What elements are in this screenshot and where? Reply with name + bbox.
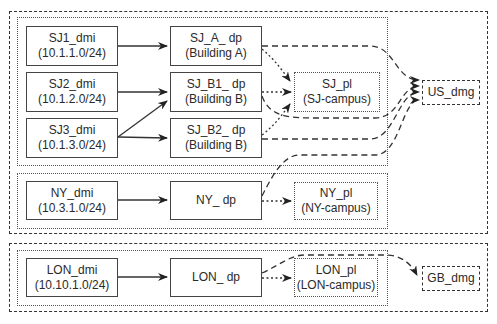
node-ny-dp: NY_ dp	[170, 181, 262, 220]
node-lon-dmi: LON_dmi (10.10.1.0/24)	[26, 258, 118, 297]
node-ny-pl: NY_pl (NY-campus)	[294, 182, 378, 220]
node-sub: (Building A)	[185, 46, 246, 61]
node-label: US_dmg	[428, 85, 475, 100]
node-subnet: (10.1.2.0/24)	[38, 92, 106, 107]
node-label: SJ_pl	[322, 77, 352, 92]
node-label: NY_ dp	[196, 193, 236, 208]
node-sj3-dmi: SJ3_dmi (10.1.3.0/24)	[26, 118, 118, 158]
node-sj2-dmi: SJ2_dmi (10.1.2.0/24)	[26, 72, 118, 112]
node-label: LON_dmi	[47, 263, 98, 278]
node-ny-dmi: NY_dmi (10.3.1.0/24)	[26, 181, 118, 220]
node-label: SJ_B1_ dp	[187, 77, 246, 92]
node-sj1-dmi: SJ1_dmi (10.1.1.0/24)	[26, 26, 118, 66]
node-label: SJ_B2_ dp	[187, 123, 246, 138]
node-lon-dp: LON_ dp	[170, 258, 262, 297]
node-label: NY_pl	[320, 186, 353, 201]
node-sj-b2-dp: SJ_B2_ dp (Building B)	[170, 118, 262, 158]
node-sj-pl: SJ_pl (SJ-campus)	[294, 72, 380, 112]
node-label: SJ1_dmi	[49, 31, 96, 46]
node-sj-a-dp: SJ_A_ dp (Building A)	[170, 26, 262, 66]
node-sub: (Building B)	[185, 92, 247, 107]
node-sub: (Building B)	[185, 138, 247, 153]
node-gb-dmg: GB_dmg	[422, 266, 480, 291]
node-label: SJ3_dmi	[49, 123, 96, 138]
node-subnet: (10.3.1.0/24)	[38, 201, 106, 216]
node-lon-pl: LON_pl (LON-campus)	[294, 258, 378, 297]
node-sub: (NY-campus)	[301, 201, 371, 216]
node-label: SJ_A_ dp	[190, 31, 242, 46]
node-label: LON_pl	[316, 263, 357, 278]
node-sub: (LON-campus)	[297, 278, 376, 293]
node-sub: (SJ-campus)	[303, 92, 371, 107]
node-label: NY_dmi	[51, 186, 94, 201]
node-subnet: (10.10.1.0/24)	[35, 278, 110, 293]
node-label: SJ2_dmi	[49, 77, 96, 92]
node-subnet: (10.1.3.0/24)	[38, 138, 106, 153]
node-us-dmg: US_dmg	[422, 80, 480, 105]
node-subnet: (10.1.1.0/24)	[38, 46, 106, 61]
node-sj-b1-dp: SJ_B1_ dp (Building B)	[170, 72, 262, 112]
node-label: LON_ dp	[192, 270, 240, 285]
node-label: GB_dmg	[427, 271, 474, 286]
